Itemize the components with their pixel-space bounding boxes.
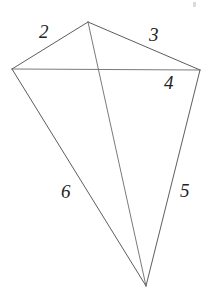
edge-top-left	[12, 22, 88, 69]
edge-label-2: 2	[39, 22, 49, 41]
edge-right-bottom	[146, 70, 200, 286]
figure-svg	[0, 0, 218, 294]
edge-label-3: 3	[149, 25, 159, 44]
geometric-figure-canvas: 2 3 4 5 6	[0, 0, 218, 294]
edge-label-5: 5	[180, 181, 190, 200]
diagonal-vertical	[88, 22, 146, 286]
scan-artifact-speck	[193, 2, 196, 7]
edge-top-right	[88, 22, 200, 70]
edge-left-bottom	[12, 69, 146, 286]
edge-label-4: 4	[164, 73, 174, 92]
edge-label-6: 6	[61, 182, 71, 201]
diagonal-horizontal	[12, 69, 200, 70]
